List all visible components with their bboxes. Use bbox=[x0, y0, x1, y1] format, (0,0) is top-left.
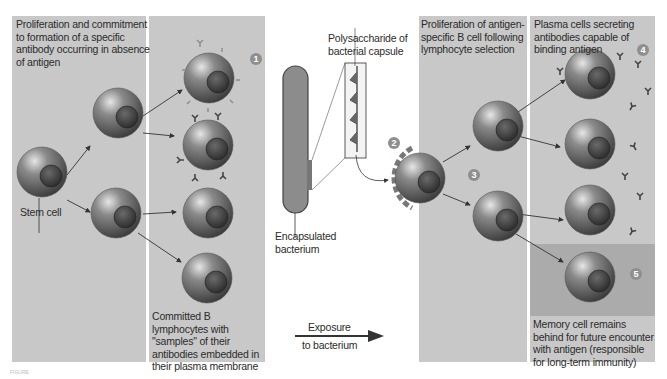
memory-cell bbox=[565, 252, 615, 302]
label-to-bacterium: to bacterium bbox=[302, 339, 357, 352]
encapsulated-bacterium bbox=[283, 66, 308, 213]
step-1-badge: 1 bbox=[250, 53, 262, 65]
label-memory-cell: Memory cell remains behind for future en… bbox=[533, 318, 658, 368]
label-proliferation-antigen-specific: Proliferation of antigen-specific B cell… bbox=[421, 18, 531, 56]
stem-cell bbox=[17, 147, 67, 197]
label-plasma-cells: Plasma cells secreting antibodies capabl… bbox=[534, 18, 638, 56]
label-committed-b-lymphocytes: Committed B lymphocytes with "samples" o… bbox=[152, 310, 268, 373]
step-2-badge: 2 bbox=[388, 137, 400, 149]
progenitor-cell-2 bbox=[91, 188, 141, 238]
proliferating-cell-1 bbox=[473, 101, 523, 151]
label-encapsulated-bacterium: Encapsulated bacterium bbox=[275, 230, 347, 255]
step-5-badge: 5 bbox=[630, 268, 642, 280]
label-proliferation-commitment: Proliferation and commitment to formatio… bbox=[16, 18, 150, 68]
plasma-cell-2 bbox=[565, 119, 615, 169]
plasma-cell-3 bbox=[565, 185, 615, 235]
step-4-badge: 4 bbox=[637, 44, 649, 56]
plasma-cell-1 bbox=[565, 49, 615, 99]
figure-caption: FIGURE bbox=[10, 369, 29, 375]
progenitor-cell-1 bbox=[93, 88, 143, 138]
label-polysaccharide: Polysaccharide of bacterial capsule bbox=[328, 32, 408, 57]
committed-cells bbox=[182, 53, 234, 303]
step-3-badge: 3 bbox=[468, 169, 480, 181]
label-stem-cell: Stem cell bbox=[20, 206, 61, 219]
selected-b-cell bbox=[395, 153, 445, 203]
proliferating-cell-2 bbox=[473, 191, 523, 241]
label-exposure: Exposure bbox=[308, 321, 351, 334]
